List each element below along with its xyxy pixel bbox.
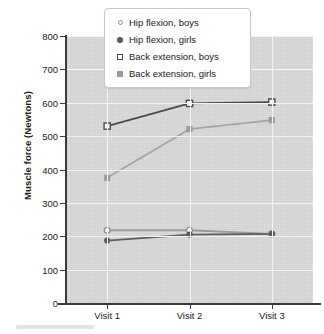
legend-item[interactable]: Hip flexion, girls	[113, 31, 244, 48]
y-axis-tick	[60, 103, 66, 104]
y-axis-tick-label: 300	[6, 197, 58, 208]
y-axis-tick-label: 700	[6, 64, 58, 75]
y-axis-tick-label: 100	[6, 264, 58, 275]
y-axis-tick-label: 800	[6, 31, 58, 42]
y-axis-tick	[60, 303, 66, 304]
filled-square-icon	[113, 71, 127, 77]
legend-item-label: Hip flexion, girls	[127, 34, 196, 45]
open-square-icon	[113, 54, 127, 60]
y-axis-tick	[60, 136, 66, 137]
x-axis-tick	[272, 304, 273, 309]
y-axis-tick-labels: 0100200300400500600700800	[0, 0, 58, 334]
x-axis-tick-label: Visit 1	[72, 310, 142, 321]
x-axis-tick	[107, 304, 108, 309]
x-axis-tick-label: Visit 3	[237, 310, 307, 321]
y-axis-tick-label: 400	[6, 164, 58, 175]
y-axis-tick-label: 0	[6, 298, 58, 309]
y-axis-tick-label: 600	[6, 97, 58, 108]
legend-item[interactable]: Hip flexion, boys	[113, 14, 244, 31]
open-circle-icon	[113, 20, 127, 25]
y-axis-tick-label: 200	[6, 231, 58, 242]
legend-item-label: Back extension, girls	[127, 68, 216, 79]
legend: Hip flexion, boys Hip flexion, girls Bac…	[104, 8, 251, 88]
x-axis-tick-label: Visit 2	[155, 310, 225, 321]
filled-circle-icon	[113, 37, 127, 43]
gridline-vertical	[272, 36, 273, 303]
y-axis-tick-label: 500	[6, 131, 58, 142]
legend-item[interactable]: Back extension, boys	[113, 48, 244, 65]
legend-item-label: Hip flexion, boys	[127, 17, 199, 28]
y-axis-tick	[60, 236, 66, 237]
y-axis-tick	[60, 203, 66, 204]
page-edge-artifact	[16, 325, 94, 329]
x-axis-tick	[190, 304, 191, 309]
legend-item[interactable]: Back extension, girls	[113, 65, 244, 82]
y-axis-tick	[60, 36, 66, 37]
y-axis-tick	[60, 270, 66, 271]
line-chart: Muscle force (Newtons) 01002003004005006…	[0, 0, 324, 334]
y-axis-tick	[60, 170, 66, 171]
y-axis-tick	[60, 69, 66, 70]
legend-item-label: Back extension, boys	[127, 51, 219, 62]
